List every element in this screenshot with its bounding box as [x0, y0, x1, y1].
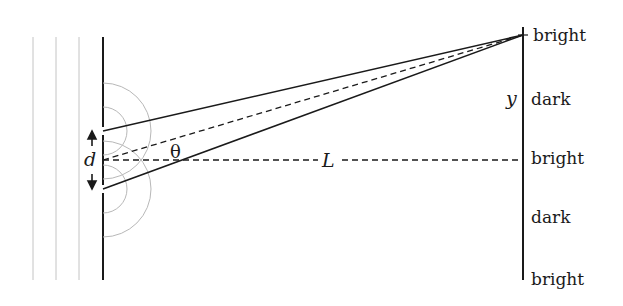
incoming-wavefronts — [33, 37, 79, 280]
fringe-label-1: bright — [533, 27, 586, 44]
slit-separation-label: d — [84, 150, 96, 169]
center-ray — [103, 35, 523, 160]
position-label: y — [506, 89, 517, 108]
fringe-label-3: bright — [531, 150, 584, 167]
double-slit-diagram: d θ L y bright dark bright dark bright — [0, 0, 623, 306]
distance-label: L — [322, 151, 335, 170]
fringe-label-5: bright — [531, 271, 584, 288]
fringe-label-4: dark — [531, 209, 570, 226]
fringe-label-2: dark — [531, 91, 570, 108]
path-rays — [103, 35, 523, 189]
angle-label: θ — [170, 143, 181, 161]
arrow-up-icon — [88, 131, 96, 139]
arrow-down-icon — [88, 181, 96, 189]
